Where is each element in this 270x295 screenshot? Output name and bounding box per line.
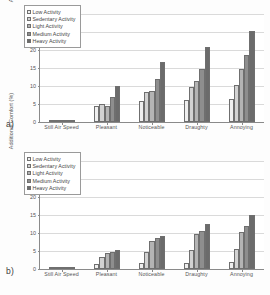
legend-a: Low ActivitySedentary ActivityLight Acti… (24, 5, 81, 48)
x-tick-label: Draughty (174, 124, 219, 130)
legend-label: Sedentary Activity (33, 16, 76, 22)
x-tick-label: Noticeable (129, 271, 174, 277)
legend-swatch-icon (27, 24, 31, 28)
bar (160, 62, 165, 122)
y-tick-label: 0 (33, 119, 36, 125)
panel-label-b: b) (6, 266, 14, 276)
x-tick-label: Draughty (174, 271, 219, 277)
bar (70, 120, 75, 122)
legend-label: Heavy Activity (33, 185, 67, 191)
legend-label: Low Activity (33, 156, 61, 162)
legend-item: Low Activity (27, 8, 76, 15)
bar-group (130, 161, 175, 269)
legend-swatch-icon (27, 10, 31, 14)
x-tick-label: Still Air Speed (39, 124, 84, 130)
legend-swatch-icon (27, 186, 31, 190)
y-tick-label: 5 (33, 101, 36, 107)
legend-label: Light Activity (33, 170, 63, 176)
legend-item: Light Activity (27, 170, 76, 177)
legend-label: Sedentary Activity (33, 163, 76, 169)
y-tick-label: 15 (30, 212, 36, 218)
x-tick-label: Annoying (219, 271, 264, 277)
y-tick-label: 10 (30, 83, 36, 89)
bar-group (174, 14, 219, 122)
y-tick-label: 0 (33, 266, 36, 272)
legend-label: Light Activity (33, 23, 63, 29)
legend-item: Medium Activity (27, 30, 76, 37)
legend-item: Medium Activity (27, 177, 76, 184)
y-tick-label: 15 (30, 65, 36, 71)
legend-swatch-icon (27, 164, 31, 168)
bar (70, 267, 75, 269)
legend-item: Sedentary Activity (27, 162, 76, 169)
y-tick-label: 5 (33, 248, 36, 254)
bar-group (174, 161, 219, 269)
bar (205, 47, 210, 122)
legend-label: Heavy Activity (33, 38, 67, 44)
chart-panel-a: a) Additional Comfort (%) 051015202530 S… (0, 0, 270, 147)
legend-swatch-icon (27, 17, 31, 21)
bar (249, 31, 254, 122)
x-axis-labels-b: Still Air SpeedPleasantNoticeableDraught… (39, 271, 264, 277)
legend-label: Medium Activity (33, 31, 71, 37)
x-tick-label: Pleasant (84, 271, 129, 277)
legend-item: Heavy Activity (27, 185, 76, 192)
bar (160, 236, 165, 269)
legend-swatch-icon (27, 171, 31, 175)
legend-swatch-icon (27, 32, 31, 36)
legend-item: Low Activity (27, 155, 76, 162)
legend-b: Low ActivitySedentary ActivityLight Acti… (24, 152, 81, 195)
y-axis-title-a: Additional Comfort (%) (8, 0, 18, 22)
chart-panel-b: b) Additional Comfort (%) 051015202530 S… (0, 147, 270, 294)
legend-swatch-icon (27, 157, 31, 161)
bar (205, 224, 210, 269)
bar-group (85, 161, 130, 269)
legend-item: Sedentary Activity (27, 15, 76, 22)
legend-label: Low Activity (33, 9, 61, 15)
legend-label: Medium Activity (33, 178, 71, 184)
figure: a) Additional Comfort (%) 051015202530 S… (0, 0, 270, 295)
legend-item: Heavy Activity (27, 38, 76, 45)
y-axis-title-b: Additional Comfort (%) (8, 73, 18, 169)
bar-group (85, 14, 130, 122)
bar (249, 215, 254, 269)
legend-swatch-icon (27, 179, 31, 183)
x-tick-label: Pleasant (84, 124, 129, 130)
x-tick-label: Still Air Speed (39, 271, 84, 277)
x-axis-labels-a: Still Air SpeedPleasantNoticeableDraught… (39, 124, 264, 130)
bar-group (219, 161, 264, 269)
bar (115, 86, 120, 122)
y-tick-mark (38, 122, 41, 123)
x-tick-label: Noticeable (129, 124, 174, 130)
legend-item: Light Activity (27, 23, 76, 30)
x-tick-label: Annoying (219, 124, 264, 130)
y-tick-label: 10 (30, 230, 36, 236)
bar-group (130, 14, 175, 122)
y-tick-mark (38, 269, 41, 270)
bar-group (219, 14, 264, 122)
legend-swatch-icon (27, 39, 31, 43)
bar (115, 250, 120, 269)
